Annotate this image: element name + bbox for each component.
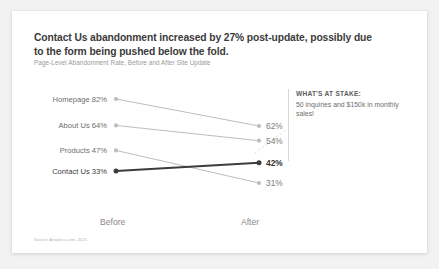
series-value-homepage: 62%: [266, 121, 283, 131]
slope-graph: [12, 11, 427, 253]
callout-heading: WHAT'S AT STAKE:: [296, 90, 414, 97]
slope-line-homepage: [116, 99, 259, 126]
data-point-products-end: [257, 181, 261, 185]
series-value-about-us: 54%: [266, 136, 283, 146]
slope-markers: [114, 97, 262, 185]
series-label-homepage: Homepage 82%: [12, 95, 107, 104]
series-label-products: Products 47%: [12, 146, 107, 155]
data-point-homepage-end: [257, 124, 261, 128]
slope-lines: [116, 99, 259, 183]
chart-card: Contact Us abandonment increased by 27% …: [12, 11, 427, 253]
data-point-contact-us-end: [257, 160, 262, 165]
data-point-about-us-start: [114, 123, 118, 127]
slope-line-about-us: [116, 125, 259, 140]
series-value-contact-us: 42%: [266, 158, 283, 168]
axis-label-before: Before: [100, 217, 125, 227]
data-point-homepage-start: [114, 97, 118, 101]
data-point-about-us-end: [257, 139, 261, 143]
callout-box: WHAT'S AT STAKE: 50 inquiries and $150k …: [296, 90, 414, 118]
source-note: Source: Analytics.com, 2021.: [34, 237, 88, 242]
data-point-products-start: [114, 148, 118, 152]
series-label-about-us: About Us 64%: [12, 121, 107, 130]
slope-line-contact-us: [116, 163, 259, 171]
data-point-contact-us-start: [114, 169, 119, 174]
axis-label-after: After: [241, 217, 259, 227]
callout-body: 50 inquiries and $150k in monthly sales!: [296, 100, 414, 118]
callout-divider: [288, 89, 289, 161]
series-value-products: 31%: [266, 178, 283, 188]
series-label-contact-us: Contact Us 33%: [12, 167, 107, 176]
